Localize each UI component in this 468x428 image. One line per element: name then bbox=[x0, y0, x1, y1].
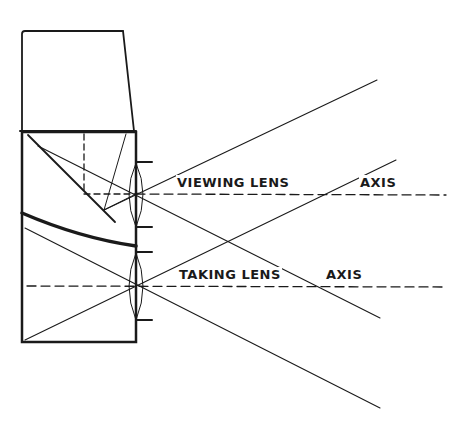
viewing-axis bbox=[136, 194, 446, 195]
viewing-axis-label: AXIS bbox=[359, 175, 397, 190]
taking-axis-label: AXIS bbox=[325, 267, 363, 282]
taking-lens-label: TAKING LENS bbox=[178, 267, 282, 282]
camera-body bbox=[22, 132, 136, 342]
film-plane bbox=[22, 213, 136, 246]
camera-diagram bbox=[0, 0, 468, 428]
diagram-canvas: VIEWING LENS AXIS TAKING LENS AXIS bbox=[0, 0, 468, 428]
viewing-lens-label: VIEWING LENS bbox=[176, 175, 290, 190]
taking-axis bbox=[27, 286, 446, 287]
viewfinder-hood bbox=[22, 31, 134, 131]
